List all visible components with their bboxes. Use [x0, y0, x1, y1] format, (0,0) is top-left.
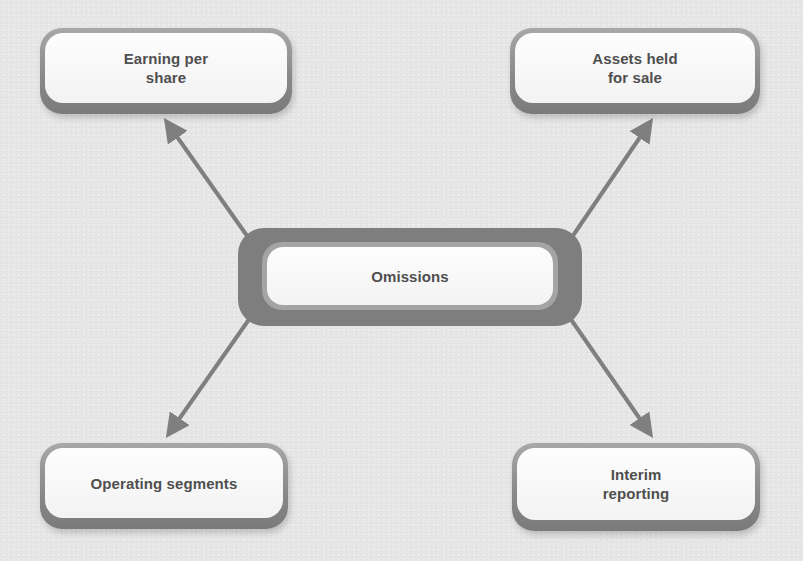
node-face: Interim reporting	[517, 448, 755, 520]
arrow-to-earning-per-share	[168, 124, 250, 240]
node-label: Omissions	[371, 267, 449, 286]
node-earning-per-share: Earning per share	[40, 28, 292, 114]
arrow-to-operating-segments	[170, 318, 250, 432]
node-interim-reporting: Interim reporting	[512, 443, 760, 531]
node-assets-held-for-sale: Assets held for sale	[510, 28, 760, 114]
node-label: Operating segments	[91, 474, 238, 493]
node-label: Interim reporting	[603, 465, 670, 503]
node-label: Earning per share	[124, 49, 208, 87]
node-omissions: Omissions	[238, 228, 582, 326]
node-face: Omissions	[267, 247, 553, 305]
arrow-to-interim-reporting	[570, 318, 649, 432]
node-label: Assets held for sale	[592, 49, 677, 87]
node-face: Operating segments	[45, 448, 283, 518]
arrow-to-assets-held-for-sale	[570, 124, 649, 240]
node-face: Assets held for sale	[515, 33, 755, 103]
node-operating-segments: Operating segments	[40, 443, 288, 529]
node-face: Earning per share	[45, 33, 287, 103]
